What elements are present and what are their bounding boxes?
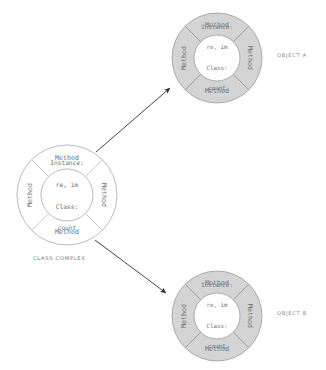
caption-object-b: object b [277,310,307,316]
arrow-class-to-object-b [95,240,166,293]
caption-object-a: object a [277,52,307,58]
object-a-core-circle [194,35,240,81]
object-b-core-circle [194,293,240,339]
diagram-canvas: Method Method Method Method Instance: re… [0,0,326,370]
node-class-complex[interactable] [17,145,117,245]
node-object-a[interactable] [172,13,262,103]
node-object-b[interactable] [172,271,262,361]
arrow-class-to-object-a [96,88,170,152]
caption-class-complex: class Complex [33,255,86,261]
class-complex-core-circle [41,169,93,221]
